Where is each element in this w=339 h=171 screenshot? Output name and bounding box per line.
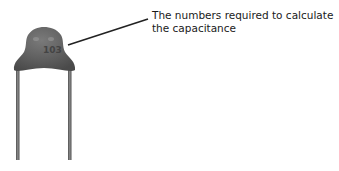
capacitor-marking: 103 <box>43 45 62 55</box>
annotation-label: The numbers required to calculate the ca… <box>152 9 333 35</box>
leader-line <box>68 19 148 45</box>
body-highlight <box>33 37 39 41</box>
capacitor-lead-right <box>68 68 72 160</box>
annotation-line-1: The numbers required to calculate <box>152 9 333 22</box>
capacitor-lead-left <box>16 68 20 160</box>
diagram-canvas: 103 The numbers required to calculate th… <box>0 0 339 171</box>
body-highlight <box>48 37 54 41</box>
annotation-line-2: the capacitance <box>152 22 333 35</box>
